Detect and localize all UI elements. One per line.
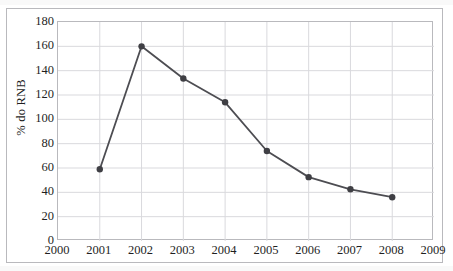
data-point-marker [389, 194, 395, 200]
vertical-gridlines [100, 22, 392, 241]
x-axis-tick-label: 2002 [118, 243, 164, 258]
data-point-marker [264, 148, 270, 154]
y-axis-tick-label: 140 [20, 64, 54, 76]
x-axis-tick-label: 2009 [410, 243, 453, 258]
x-axis-tick-label: 2000 [34, 243, 80, 258]
plot-area [57, 21, 433, 240]
data-point-marker [138, 43, 144, 49]
data-point-marker [222, 99, 228, 105]
data-point-marker [305, 174, 311, 180]
x-axis-tick-label: 2006 [285, 243, 331, 258]
x-axis-tick-label: 2008 [368, 243, 414, 258]
data-point-marker [347, 186, 353, 192]
plot-svg [58, 22, 434, 241]
data-point-marker [97, 166, 103, 172]
y-axis-tick-label: 160 [20, 39, 54, 51]
y-axis-tick-label: 40 [20, 185, 54, 197]
x-axis-tick-label: 2005 [243, 243, 289, 258]
x-axis-tick-label: 2001 [76, 243, 122, 258]
y-axis-tick-label: 100 [20, 112, 54, 124]
x-axis-tick-labels: 2000200120022003200420052006200720082009 [0, 243, 453, 263]
x-axis-tick-label: 2003 [159, 243, 205, 258]
line-chart-figure: % do RNB 020406080100120140160180 200020… [0, 0, 453, 271]
y-axis-tick-label: 180 [20, 15, 54, 27]
y-axis-tick-label: 80 [20, 137, 54, 149]
data-point-marker [180, 75, 186, 81]
y-axis-tick-label: 120 [20, 88, 54, 100]
x-axis-tick-label: 2004 [201, 243, 247, 258]
horizontal-gridlines [58, 46, 434, 216]
y-axis-tick-labels: 020406080100120140160180 [20, 0, 54, 271]
data-series-line [100, 46, 392, 197]
y-axis-tick-label: 20 [20, 210, 54, 222]
scan-artifact-top [0, 0, 453, 5]
scan-artifact-bottom [0, 266, 453, 271]
y-axis-tick-label: 60 [20, 161, 54, 173]
x-axis-tick-label: 2007 [326, 243, 372, 258]
